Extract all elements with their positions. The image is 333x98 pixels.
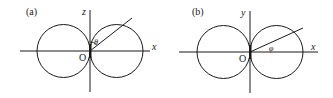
panel-a-x-label: x <box>151 41 157 52</box>
panel-b-radius-ray <box>250 28 303 52</box>
panel-b <box>179 11 318 93</box>
panel-b-phi-label: φ <box>269 44 274 53</box>
panel-a-origin-label: O <box>79 52 86 63</box>
panel-b-label: (b) <box>192 6 204 18</box>
diagram-canvas: (a) z x O θ (b) y x O φ <box>0 0 333 98</box>
panel-a <box>20 10 150 92</box>
panel-b-origin-mark <box>249 45 252 59</box>
panel-a-z-label: z <box>81 6 86 17</box>
panel-b-x-label: x <box>310 41 316 52</box>
panel-a-origin-mark <box>89 44 92 58</box>
panel-b-y-label: y <box>240 7 246 18</box>
panel-a-label: (a) <box>26 6 37 18</box>
panel-a-theta-label: θ <box>94 38 98 47</box>
panel-b-origin-label: O <box>239 53 246 64</box>
